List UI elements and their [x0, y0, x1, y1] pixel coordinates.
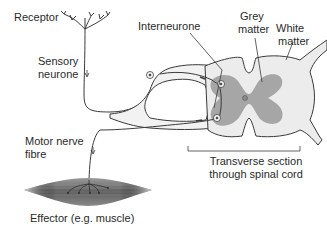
spinal-cord-section [205, 40, 327, 145]
motor-arrow-icon [196, 120, 202, 121]
label-interneurone: Interneurone [138, 20, 200, 33]
label-motor-line1: Motor nerve [25, 135, 84, 148]
label-sensory-line2: neurone [38, 68, 78, 81]
label-white-matter: White matter [276, 22, 309, 48]
label-motor-line2: fibre [25, 148, 84, 161]
label-sensory-line1: Sensory [38, 55, 78, 68]
label-motor-nerve-fibre: Motor nerve fibre [25, 135, 84, 161]
label-effector: Effector (e.g. muscle) [30, 212, 134, 225]
label-grey-line1: Grey [238, 10, 269, 23]
label-grey-line2: matter [238, 23, 269, 36]
label-white-line1: White [276, 22, 309, 35]
label-white-line2: matter [276, 35, 309, 48]
sensory-arrow-icon [85, 70, 89, 77]
label-transverse-line2: through spinal cord [198, 168, 314, 181]
label-transverse-section: Transverse section through spinal cord [198, 155, 314, 181]
receptor-icon [61, 11, 110, 29]
transverse-bracket [188, 146, 300, 151]
central-canal [243, 96, 248, 101]
label-sensory-neurone: Sensory neurone [38, 55, 78, 81]
effector-muscle-icon [24, 178, 152, 206]
reflex-arc-diagram: Receptor Sensory neurone Interneurone Gr… [0, 0, 327, 234]
label-grey-matter: Grey matter [238, 10, 269, 36]
label-receptor: Receptor [14, 11, 59, 24]
label-transverse-line1: Transverse section [198, 155, 314, 168]
